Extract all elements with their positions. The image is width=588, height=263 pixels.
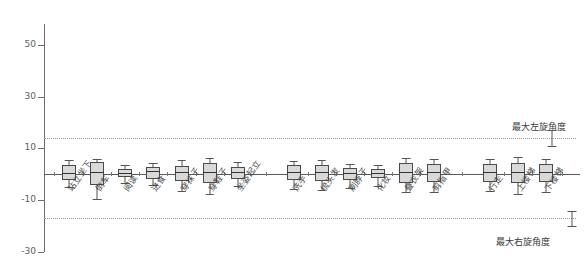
boxplot-box (427, 0, 441, 252)
boxplot-chart: 503010-10-30 站立坐下倒车阅读进食穿袜子穿鞋子坐姿起立洗手梳头发刷脖… (0, 0, 588, 263)
max-right-rotation-label: 最大右旋角度 (496, 238, 550, 247)
boxplot-box (231, 0, 245, 252)
boxplot-box (146, 0, 160, 252)
boxplot-box (483, 0, 497, 252)
boxplot-box (118, 0, 132, 252)
boxplot-box (343, 0, 357, 252)
boxplot-box (399, 0, 413, 252)
max-left-rotation-marker (546, 0, 558, 252)
boxplot-box (90, 0, 104, 252)
boxplot-box (315, 0, 329, 252)
boxplot-box (62, 0, 76, 252)
boxplot-box (287, 0, 301, 252)
boxplot-series (0, 0, 588, 263)
max-right-rotation-marker (566, 0, 578, 252)
boxplot-box (203, 0, 217, 252)
boxplot-box (371, 0, 385, 252)
boxplot-box (175, 0, 189, 252)
